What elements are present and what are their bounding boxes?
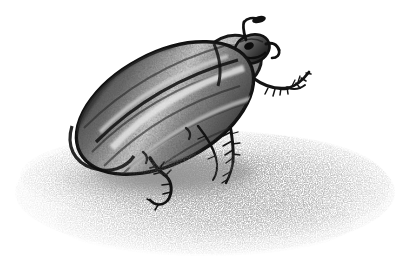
ground-foreground-stipple (100, 150, 292, 182)
beetle-illustration (0, 0, 397, 266)
illustration-canvas: Beetle (0, 0, 397, 266)
